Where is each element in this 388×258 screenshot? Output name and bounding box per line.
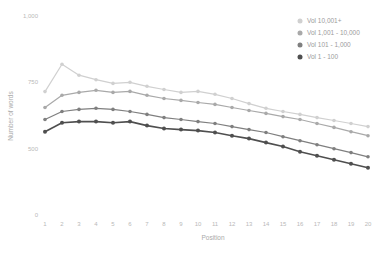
y-axis-title: Number of words (7, 91, 14, 141)
data-point (196, 129, 200, 133)
series-vol-1-001-10-000 (43, 89, 370, 138)
data-point (366, 166, 370, 170)
x-tick-label: 8 (162, 221, 166, 227)
legend-dot-icon (298, 31, 303, 36)
x-tick-label: 15 (280, 221, 287, 227)
data-point (349, 162, 353, 166)
legend-item-vol-1-001-10-000[interactable]: Vol 1,001 - 10,000 (298, 29, 361, 36)
legend-label: Vol 1 - 100 (307, 53, 338, 60)
data-point (111, 82, 115, 86)
data-point (281, 135, 285, 139)
x-tick-label: 5 (111, 221, 115, 227)
data-point (247, 109, 251, 113)
data-point (128, 90, 132, 94)
data-point (77, 120, 81, 124)
data-point (264, 112, 268, 116)
y-tick-label: 750 (28, 79, 39, 85)
data-point (298, 113, 302, 117)
x-tick-label: 11 (212, 221, 219, 227)
legend-label: Vol 101 - 1,000 (307, 41, 351, 48)
data-point (298, 139, 302, 143)
x-tick-label: 1 (43, 221, 47, 227)
data-point (332, 147, 336, 151)
x-tick-label: 16 (297, 221, 304, 227)
series-vol-1-100 (43, 120, 370, 170)
data-point (162, 127, 166, 131)
x-tick-label: 17 (314, 221, 321, 227)
x-tick-label: 7 (145, 221, 149, 227)
data-point (94, 107, 98, 111)
data-point (298, 150, 302, 154)
data-point (315, 116, 319, 120)
data-point (111, 108, 115, 112)
data-point (298, 118, 302, 122)
data-point (60, 110, 64, 114)
series-line (45, 64, 368, 126)
data-point (366, 155, 370, 159)
data-point (247, 128, 251, 132)
data-point (128, 81, 132, 85)
data-point (43, 130, 47, 134)
data-point (366, 134, 370, 138)
data-point (332, 119, 336, 123)
data-point (366, 125, 370, 129)
data-point (128, 110, 132, 114)
data-point (94, 89, 98, 93)
legend: Vol 10,001+Vol 1,001 - 10,000Vol 101 - 1… (298, 17, 361, 60)
x-tick-label: 14 (263, 221, 270, 227)
data-point (315, 143, 319, 147)
data-point (349, 151, 353, 155)
y-tick-label: 0 (35, 212, 39, 218)
data-point (43, 106, 47, 110)
data-point (264, 131, 268, 135)
x-axis-title: Position (201, 234, 225, 241)
x-tick-label: 18 (331, 221, 338, 227)
x-tick-label: 6 (128, 221, 132, 227)
data-point (230, 106, 234, 110)
x-tick-label: 19 (348, 221, 355, 227)
data-point (332, 126, 336, 130)
x-tick-label: 4 (94, 221, 98, 227)
x-tick-label: 9 (179, 221, 183, 227)
data-point (77, 108, 81, 112)
legend-label: Vol 10,001+ (307, 17, 342, 24)
data-point (60, 121, 64, 125)
data-point (43, 118, 47, 122)
data-point (162, 116, 166, 120)
data-point (281, 145, 285, 149)
data-point (145, 85, 149, 89)
data-point (94, 120, 98, 124)
y-axis-ticks: 05007501,000 (23, 13, 39, 218)
data-point (315, 154, 319, 158)
x-tick-label: 3 (77, 221, 81, 227)
data-point (145, 124, 149, 128)
x-tick-label: 10 (195, 221, 202, 227)
data-point (213, 122, 217, 126)
data-point (247, 137, 251, 141)
data-point (179, 91, 183, 95)
data-point (264, 107, 268, 111)
data-point (264, 141, 268, 145)
data-point (145, 113, 149, 117)
x-axis-ticks: 1234567891011121314151617181920 (43, 221, 372, 227)
data-point (179, 128, 183, 132)
data-point (230, 134, 234, 138)
line-chart-canvas: Number of words Position 05007501,000 12… (0, 0, 388, 258)
series-vol-10-001 (43, 63, 370, 129)
data-point (247, 102, 251, 106)
legend-item-vol-101-1-000[interactable]: Vol 101 - 1,000 (298, 41, 352, 48)
data-point (111, 121, 115, 125)
legend-item-vol-1-100[interactable]: Vol 1 - 100 (298, 53, 339, 60)
x-tick-label: 20 (365, 221, 372, 227)
x-tick-label: 13 (246, 221, 253, 227)
data-point (349, 122, 353, 126)
legend-item-vol-10-001[interactable]: Vol 10,001+ (298, 17, 342, 24)
data-point (281, 115, 285, 119)
data-point (196, 101, 200, 105)
chart: Number of words Position 05007501,000 12… (0, 0, 388, 258)
data-point (145, 94, 149, 98)
x-tick-label: 2 (60, 221, 64, 227)
data-point (60, 94, 64, 98)
y-tick-label: 500 (28, 146, 39, 152)
data-point (77, 73, 81, 77)
